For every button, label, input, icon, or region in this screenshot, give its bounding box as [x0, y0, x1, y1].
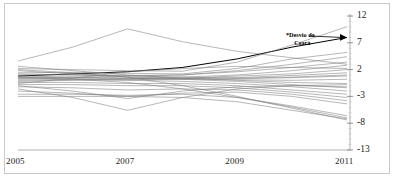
y-axis-tick-label: 7 [357, 37, 362, 47]
x-axis-tick-label: 2011 [335, 156, 353, 166]
line-chart-plot-area [0, 0, 395, 179]
x-axis-tick-label: 2005 [6, 156, 25, 166]
y-axis-tick-label: -8 [357, 117, 365, 127]
y-axis-tick-label: -3 [357, 90, 365, 100]
annotation-arrowhead [340, 34, 347, 41]
x-axis-tick-label: 2009 [225, 156, 244, 166]
x-axis-tick-label: 2007 [116, 156, 135, 166]
y-axis-tick-label: 12 [357, 10, 367, 20]
annotation-line-2: Ceará [290, 39, 315, 47]
series-line [18, 96, 347, 119]
y-axis-tick-label: 2 [357, 64, 362, 74]
y-axis-tick-label: -13 [357, 144, 370, 154]
chart-canvas [0, 0, 395, 179]
annotation-desvio-ceara: *Desvio da Ceará [286, 31, 315, 47]
annotation-line-1: *Desvio da [286, 31, 315, 38]
chart-screenshot: *Desvio da Ceará 20052007200920111272-3-… [0, 0, 395, 179]
series-line [18, 52, 347, 73]
